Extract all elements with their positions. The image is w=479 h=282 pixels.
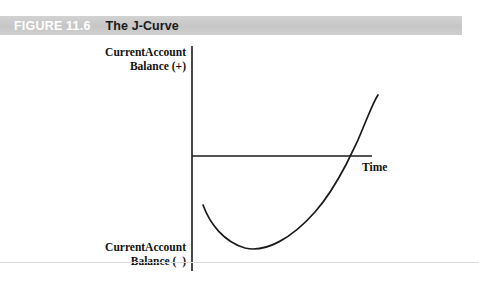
chart-plot-area: CurrentAccount Balance (+) CurrentAccoun…: [0, 0, 479, 282]
negative-balance-label-line1: CurrentAccount: [0, 240, 186, 254]
j-curve-path: [203, 95, 378, 249]
negative-balance-label: CurrentAccount Balance (–): [0, 240, 186, 268]
positive-balance-label-line2: Balance (+): [0, 59, 186, 73]
time-axis-label: Time: [362, 161, 387, 173]
positive-balance-label: CurrentAccount Balance (+): [0, 45, 186, 73]
figure-container: FIGURE 11.6 The J-Curve CurrentAccount B…: [0, 0, 479, 282]
bottom-divider: [0, 262, 479, 263]
positive-balance-label-line1: CurrentAccount: [0, 45, 186, 59]
